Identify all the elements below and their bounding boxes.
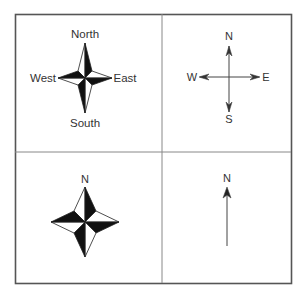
label-n: N [81,173,89,185]
label-north: North [71,28,99,40]
label-east: East [113,72,137,84]
label-s: S [225,113,232,125]
north-arrow-icon [223,187,231,246]
cross-arrows-icon [199,46,260,112]
label-n: N [223,172,231,184]
compass-rose-icon [58,43,112,113]
label-west: West [30,72,57,84]
label-south: South [70,117,100,129]
panel-compass-rose-full: North South West East [30,28,137,129]
compass-rose-icon [51,187,119,257]
compass-diagram: North South West East N S W E [0,0,303,300]
label-e: E [262,71,269,83]
label-w: W [187,71,198,83]
label-n: N [225,30,233,42]
panel-compass-rose-n: N [51,173,119,257]
outer-frame [16,15,292,284]
panel-north-arrow: N [223,172,231,246]
panel-cross-arrows: N S W E [187,30,270,125]
